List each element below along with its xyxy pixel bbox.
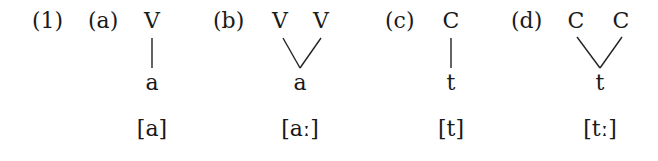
association-line-d-left <box>577 37 600 68</box>
association-line-b-right <box>300 38 321 68</box>
association-line-d-right <box>600 37 622 68</box>
association-line-b-left <box>283 38 300 68</box>
association-lines <box>0 0 658 161</box>
